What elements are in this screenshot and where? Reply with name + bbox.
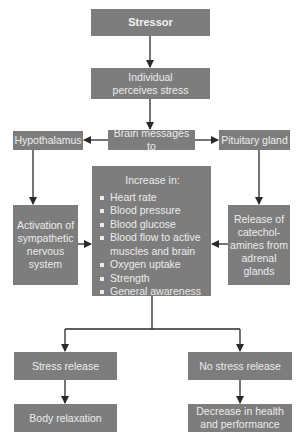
increase-in-title: Increase in: <box>100 174 205 188</box>
pituitary-gland-box: Pituitary gland <box>219 130 290 150</box>
list-item: Blood flow to active muscles and brain <box>100 231 205 258</box>
perceives-stress-label: Individual perceives stress <box>105 71 196 97</box>
brain-messages-box: Brain messages to <box>108 130 195 150</box>
increase-list: Heart rate Blood pressure Blood glucose … <box>100 191 205 299</box>
hypothalamus-label: Hypothalamus <box>14 134 81 147</box>
list-item: Blood glucose <box>100 218 205 232</box>
health-decrease-label: Decrease in health and performance <box>194 405 286 431</box>
list-item: Blood pressure <box>100 204 205 218</box>
no-stress-release-label: No stress release <box>199 360 281 373</box>
sympathetic-activation-box: Activation of sympathetic nervous system <box>13 205 78 285</box>
hypothalamus-box: Hypothalamus <box>13 131 83 150</box>
list-item: Strength <box>100 272 205 286</box>
brain-messages-label: Brain messages to <box>110 127 193 153</box>
stressor-box: Stressor <box>91 9 210 36</box>
stress-release-box: Stress release <box>14 352 117 380</box>
sympathetic-activation-label: Activation of sympathetic nervous system <box>15 219 76 271</box>
list-item: Heart rate <box>100 191 205 205</box>
catecholamine-release-box: Release of catechol-amines from adrenal … <box>228 205 290 285</box>
list-item: General awareness <box>100 285 205 299</box>
health-decrease-box: Decrease in health and performance <box>188 404 292 432</box>
stressor-label: Stressor <box>128 16 173 29</box>
list-item: Oxygen uptake <box>100 258 205 272</box>
body-relaxation-label: Body relaxation <box>29 412 101 425</box>
increase-in-box: Increase in: Heart rate Blood pressure B… <box>92 166 211 296</box>
body-relaxation-box: Body relaxation <box>14 404 117 432</box>
perceives-stress-box: Individual perceives stress <box>91 68 210 99</box>
pituitary-gland-label: Pituitary gland <box>221 134 288 147</box>
no-stress-release-box: No stress release <box>188 352 292 380</box>
catecholamine-release-label: Release of catechol-amines from adrenal … <box>230 213 288 278</box>
stress-release-label: Stress release <box>32 360 99 373</box>
